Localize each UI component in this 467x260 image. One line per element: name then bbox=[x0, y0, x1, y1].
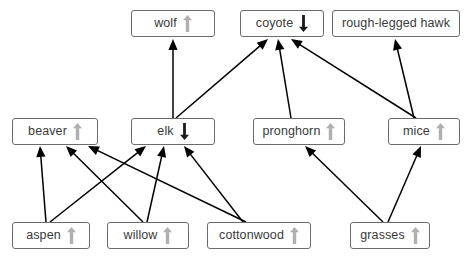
trend-up-icon bbox=[67, 227, 76, 244]
arrowhead-icon bbox=[168, 39, 177, 50]
edge-line bbox=[311, 152, 383, 222]
node-label-coyote: coyote bbox=[256, 17, 293, 30]
arrowhead-icon bbox=[393, 39, 402, 51]
edge-line bbox=[147, 155, 162, 222]
edge-grasses-to-mice bbox=[388, 146, 421, 222]
edge-line bbox=[279, 48, 291, 118]
node-grasses[interactable]: grasses bbox=[350, 222, 430, 249]
node-pronghorn[interactable]: pronghorn bbox=[253, 118, 345, 145]
edge-line bbox=[96, 150, 246, 222]
node-label-wolf: wolf bbox=[154, 17, 177, 30]
edge-line bbox=[176, 45, 261, 118]
node-label-elk: elk bbox=[157, 125, 173, 138]
edge-grasses-to-pronghorn bbox=[305, 146, 383, 222]
node-willow[interactable]: willow bbox=[107, 222, 189, 249]
trend-up-icon bbox=[436, 123, 445, 140]
node-wolf[interactable]: wolf bbox=[131, 10, 215, 37]
edge-line bbox=[190, 153, 243, 222]
trend-down-icon bbox=[299, 15, 308, 32]
edge-line bbox=[50, 152, 139, 222]
node-label-willow: willow bbox=[124, 229, 158, 242]
edge-elk-to-coyote bbox=[176, 39, 268, 118]
arrowhead-icon bbox=[36, 146, 45, 157]
trend-up-icon bbox=[290, 227, 299, 244]
node-elk[interactable]: elk bbox=[131, 118, 215, 145]
edge-line bbox=[388, 154, 417, 222]
trend-up-icon bbox=[326, 123, 335, 140]
edge-cottonwood-to-beaver bbox=[88, 146, 246, 222]
arrowhead-icon bbox=[275, 39, 284, 51]
edge-cottonwood-to-elk bbox=[184, 146, 243, 222]
trend-up-icon bbox=[163, 227, 172, 244]
node-aspen[interactable]: aspen bbox=[12, 222, 90, 249]
node-label-beaver: beaver bbox=[28, 125, 67, 138]
node-label-pronghorn: pronghorn bbox=[263, 125, 321, 138]
node-mice[interactable]: mice bbox=[388, 118, 460, 145]
trend-up-icon bbox=[183, 15, 192, 32]
edge-elk-to-wolf bbox=[168, 39, 177, 118]
node-hawk[interactable]: rough-legged hawk bbox=[332, 10, 460, 37]
trend-up-icon bbox=[73, 123, 82, 140]
arrowhead-icon bbox=[291, 39, 303, 49]
arrowhead-icon bbox=[135, 146, 146, 156]
edge-aspen-to-beaver bbox=[36, 146, 46, 222]
edge-willow-to-elk bbox=[147, 146, 166, 222]
edge-line bbox=[41, 155, 46, 222]
edge-pronghorn-to-coyote bbox=[275, 39, 291, 118]
arrowhead-icon bbox=[184, 146, 194, 158]
node-label-mice: mice bbox=[403, 125, 430, 138]
node-coyote[interactable]: coyote bbox=[240, 10, 324, 37]
edge-line bbox=[72, 152, 143, 222]
trend-down-icon bbox=[180, 123, 189, 140]
node-cottonwood[interactable]: cottonwood bbox=[207, 222, 311, 249]
arrowhead-icon bbox=[157, 146, 166, 158]
node-label-hawk: rough-legged hawk bbox=[342, 17, 450, 30]
node-label-cottonwood: cottonwood bbox=[219, 229, 284, 242]
node-label-aspen: aspen bbox=[26, 229, 61, 242]
food-web-diagram: wolfcoyoterough-legged hawkbeaverelkpron… bbox=[0, 0, 467, 260]
node-label-grasses: grasses bbox=[360, 229, 404, 242]
trend-up-icon bbox=[411, 227, 420, 244]
node-beaver[interactable]: beaver bbox=[12, 118, 98, 145]
